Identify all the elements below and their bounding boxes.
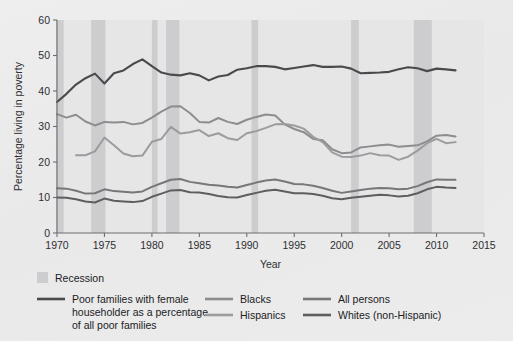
y-tick-label: 10 [38,191,50,203]
y-tick-label: 0 [44,227,50,239]
legend-label-whites: Whites (non-Hispanic) [338,309,441,321]
legend-label-all-persons: All persons [338,293,390,305]
legend-label-hispanics: Hispanics [240,309,286,321]
y-tick-label: 50 [38,49,50,61]
recession-band [414,20,432,233]
y-axis-title: Percentage living in poverty [12,61,24,191]
legend-label-poor-families-line1: Poor families with female [72,293,189,305]
x-tick-label: 1975 [93,239,117,251]
legend-label-poor-families-line2: householder as a percentage [72,306,208,318]
chart-figure: 0102030405060197019751980198519901995200… [0,0,513,341]
x-tick-label: 1980 [140,239,164,251]
x-tick-label: 1985 [188,239,212,251]
legend-label-poor-families-line3: of all poor families [72,319,157,331]
x-tick-label: 2005 [377,239,401,251]
y-tick-label: 20 [38,156,50,168]
x-axis-title: Year [260,258,282,270]
x-tick-label: 2015 [472,239,496,251]
legend: Recession Poor families with female hous… [37,272,441,331]
x-tick-label: 2010 [425,239,449,251]
x-tick-label: 1970 [45,239,69,251]
legend-label-blacks: Blacks [240,293,271,305]
recession-band [252,20,259,233]
poverty-line-chart: 0102030405060197019751980198519901995200… [0,0,513,341]
x-tick-label: 1995 [283,239,307,251]
recession-band [166,20,179,233]
legend-recession-swatch [37,272,48,283]
recession-band [351,20,359,233]
x-tick-label: 2000 [330,239,354,251]
y-tick-label: 60 [38,14,50,26]
legend-recession-label: Recession [55,272,104,284]
x-tick-label: 1990 [235,239,259,251]
recession-band [152,20,158,233]
y-tick-label: 30 [38,120,50,132]
y-tick-label: 40 [38,85,50,97]
